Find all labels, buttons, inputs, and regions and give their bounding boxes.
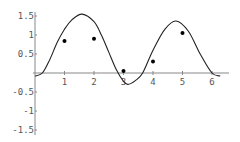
y-tick-label: 1: [29, 30, 34, 40]
chart-plot: 1234561.510.5-0.5-1-1.5: [0, 0, 240, 142]
x-tick-label: 6: [209, 77, 214, 87]
x-tick-label: 5: [180, 77, 185, 87]
y-tick-label: -1: [23, 106, 34, 116]
fit-curve-path: [35, 14, 220, 84]
y-tick-label: 1.5: [18, 11, 34, 21]
x-tick-label: 4: [150, 77, 155, 87]
y-tick-label: -1.5: [12, 125, 34, 135]
data-point: [92, 37, 96, 41]
y-tick-label: 0.5: [18, 49, 34, 59]
data-point: [122, 69, 126, 73]
chart-axes: [33, 12, 229, 135]
fit-curve: [35, 14, 220, 84]
data-point: [181, 31, 185, 35]
data-point: [63, 39, 67, 43]
x-tick-label: 1: [62, 77, 67, 87]
data-point: [151, 60, 155, 64]
y-tick-label: -0.5: [12, 87, 34, 97]
data-points: [63, 31, 185, 73]
x-tick-label: 2: [91, 77, 96, 87]
